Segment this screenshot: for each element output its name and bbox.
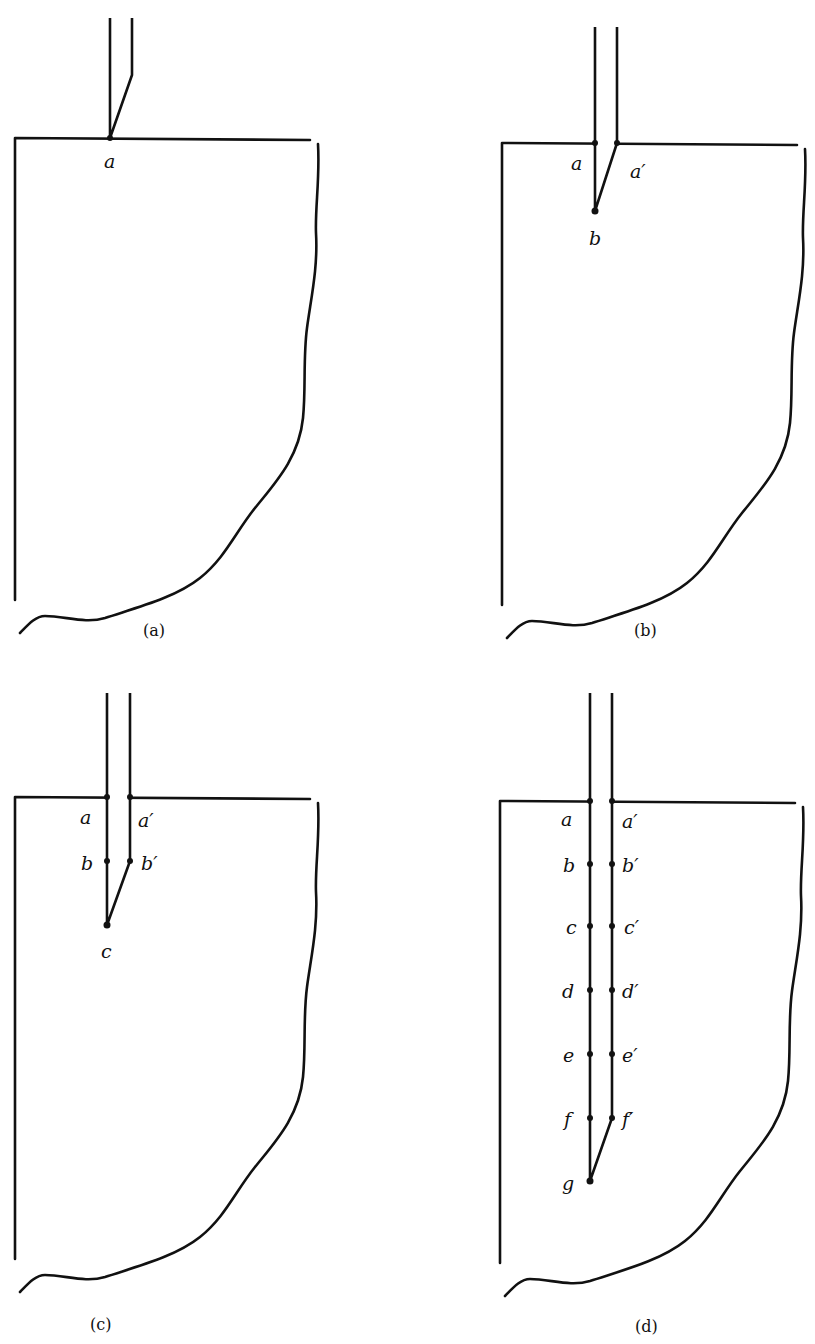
- point-label: b: [563, 854, 575, 876]
- panel-caption: (c): [90, 1315, 111, 1334]
- point-label: f: [562, 1108, 574, 1130]
- panel-caption: (b): [634, 621, 657, 640]
- point-label: a′: [630, 160, 646, 182]
- point-label: b′: [141, 852, 158, 874]
- crack-propagation-diagram: a (a) a a′ b (b) a a′ b b′ c (c): [0, 0, 815, 1344]
- point-marker: [107, 135, 113, 141]
- point-marker: [104, 794, 110, 800]
- point-label: a′: [138, 809, 154, 831]
- specimen-outline: [500, 801, 803, 1296]
- point-label: b′: [622, 854, 639, 876]
- point-label: a: [104, 150, 115, 172]
- point-label: a: [80, 806, 91, 828]
- point-marker: [127, 794, 133, 800]
- point-label: d′: [622, 980, 639, 1002]
- point-label: a′: [622, 810, 638, 832]
- point-label: a: [571, 152, 582, 174]
- point-marker: [104, 858, 110, 864]
- point-label: b: [81, 852, 93, 874]
- point-marker: [592, 208, 599, 215]
- panel-caption: (a): [143, 621, 165, 640]
- cutting-tool: [595, 27, 617, 211]
- panel-a: a (a): [15, 18, 318, 640]
- point-label: a: [561, 808, 572, 830]
- specimen-outline: [15, 797, 318, 1292]
- point-label: e′: [622, 1044, 638, 1066]
- point-marker: [614, 140, 620, 146]
- point-label: c′: [624, 916, 640, 938]
- panel-caption: (d): [635, 1317, 658, 1336]
- point-label: d: [562, 980, 574, 1002]
- point-label: g: [562, 1172, 574, 1194]
- cutting-tool: [107, 693, 130, 925]
- cutting-tool: [590, 693, 612, 1181]
- panel-c: a a′ b b′ c (c): [15, 693, 318, 1334]
- cutting-tool: [110, 18, 132, 138]
- panel-d: a a′ b b′ c c′ d d′ e e′ f f′ g (d): [500, 693, 803, 1336]
- point-marker: [127, 858, 133, 864]
- point-label: f′: [620, 1108, 634, 1130]
- point-label: b: [589, 227, 601, 249]
- point-marker: [592, 140, 598, 146]
- specimen-outline: [15, 138, 318, 633]
- point-label: c: [101, 940, 112, 962]
- panel-b: a a′ b (b): [502, 27, 805, 640]
- point-label: c: [566, 916, 577, 938]
- specimen-outline: [502, 143, 805, 638]
- point-marker: [104, 922, 111, 929]
- point-label: e: [563, 1044, 574, 1066]
